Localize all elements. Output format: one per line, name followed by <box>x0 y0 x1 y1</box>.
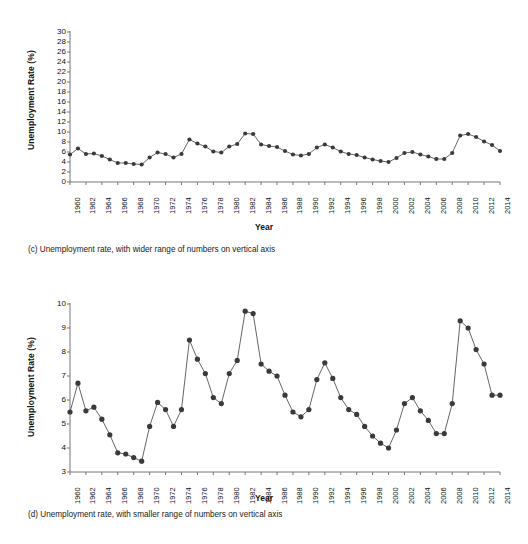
data-point <box>251 132 255 136</box>
data-point <box>426 418 431 423</box>
y-tick-label: 9 <box>44 324 66 332</box>
data-point <box>92 151 96 155</box>
data-point <box>482 139 486 143</box>
data-point <box>266 369 271 374</box>
x-tick-label: 2002 <box>408 487 416 504</box>
chart-panel-c: Unemployment Rate (%) Year (c) Unemploym… <box>0 0 528 272</box>
data-point <box>458 133 462 137</box>
data-point <box>355 153 359 157</box>
data-point <box>474 347 479 352</box>
data-point <box>171 424 176 429</box>
x-tick-label: 1978 <box>217 197 225 214</box>
data-point <box>219 401 224 406</box>
data-point <box>155 400 160 405</box>
x-tick-label: 1996 <box>360 487 368 504</box>
data-point <box>282 393 287 398</box>
x-tick-label: 1988 <box>296 197 304 214</box>
data-point <box>251 311 256 316</box>
data-point <box>179 407 184 412</box>
data-point <box>187 337 192 342</box>
data-point <box>418 408 423 413</box>
x-tick-label: 1998 <box>376 197 384 214</box>
data-point <box>163 407 168 412</box>
y-tick-label: 2 <box>44 168 66 176</box>
data-point <box>489 393 494 398</box>
y-tick-label: 4 <box>44 158 66 166</box>
axis-lines <box>70 303 500 472</box>
data-point <box>179 152 183 156</box>
data-point <box>466 132 470 136</box>
x-tick-label: 1976 <box>201 197 209 214</box>
data-point <box>267 144 271 148</box>
chart-svg-d <box>0 272 528 482</box>
data-point <box>203 144 207 148</box>
y-tick-label: 28 <box>44 38 66 46</box>
x-tick-label: 1980 <box>233 197 241 214</box>
x-tick-label: 1982 <box>249 487 257 504</box>
data-point <box>243 131 247 135</box>
data-point <box>378 159 382 163</box>
data-point <box>331 145 335 149</box>
data-point <box>283 149 287 153</box>
x-tick-label: 2014 <box>504 197 512 214</box>
data-point <box>243 309 248 314</box>
data-point <box>171 155 175 159</box>
data-point <box>100 154 104 158</box>
data-point <box>394 156 398 160</box>
x-tick-label: 1982 <box>249 197 257 214</box>
y-tick-label: 18 <box>44 88 66 96</box>
x-tick-label: 2010 <box>472 197 480 214</box>
x-tick-label: 2012 <box>488 197 496 214</box>
data-point <box>450 151 454 155</box>
data-point <box>148 155 152 159</box>
chart-svg-c <box>0 0 528 200</box>
data-point <box>235 358 240 363</box>
x-tick-label: 1970 <box>153 197 161 214</box>
y-tick-label: 5 <box>44 420 66 428</box>
data-point <box>290 409 295 414</box>
data-point <box>458 318 463 323</box>
x-tick-label: 1974 <box>185 197 193 214</box>
x-tick-label: 1990 <box>312 487 320 504</box>
x-tick-label: 2002 <box>408 197 416 214</box>
x-tick-label: 1984 <box>265 487 273 504</box>
series-line <box>70 311 500 461</box>
y-tick-label: 4 <box>44 444 66 452</box>
x-tick-label: 2004 <box>424 487 432 504</box>
data-point <box>163 152 167 156</box>
y-tick-label: 0 <box>44 178 66 186</box>
data-point <box>402 151 406 155</box>
y-tick-label: 16 <box>44 98 66 106</box>
y-tick-label: 22 <box>44 68 66 76</box>
data-point <box>259 361 264 366</box>
data-point <box>386 445 391 450</box>
data-point <box>497 393 502 398</box>
data-point <box>259 142 263 146</box>
x-tick-label: 1972 <box>169 197 177 214</box>
data-point <box>378 441 383 446</box>
x-tick-label: 1968 <box>137 197 145 214</box>
x-tick-label: 1992 <box>328 487 336 504</box>
data-point <box>131 455 136 460</box>
data-point <box>363 155 367 159</box>
data-point <box>338 395 343 400</box>
x-tick-label: 2006 <box>440 487 448 504</box>
data-point <box>307 152 311 156</box>
data-point <box>203 371 208 376</box>
data-point <box>370 157 374 161</box>
data-point <box>426 154 430 158</box>
data-point <box>347 152 351 156</box>
data-point <box>386 160 390 164</box>
data-point <box>147 424 152 429</box>
data-point <box>139 459 144 464</box>
x-tick-label: 2008 <box>456 197 464 214</box>
data-point <box>370 433 375 438</box>
y-tick-label: 10 <box>44 128 66 136</box>
panel-caption-c: (c) Unemployment rate, with wider range … <box>28 245 275 254</box>
data-point <box>76 146 80 150</box>
data-point <box>490 143 494 147</box>
data-point <box>132 162 136 166</box>
x-tick-label: 1962 <box>89 487 97 504</box>
y-axis-title-d: Unemployment Rate (%) <box>26 337 36 437</box>
x-tick-label: 1960 <box>74 487 82 504</box>
